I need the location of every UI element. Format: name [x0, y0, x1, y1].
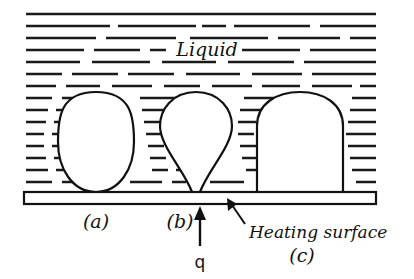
heating-surface-plate [24, 192, 376, 204]
heating-surface-label: Heating surface [248, 222, 387, 242]
case-label-b: (b) [167, 210, 194, 232]
case-label-a: (a) [83, 210, 109, 232]
liquid-label: Liquid [175, 38, 237, 60]
case-label-c: (c) [289, 244, 314, 266]
bubble-b-teardrop [160, 92, 232, 192]
heat-flux-arrow-icon [194, 206, 206, 246]
bubble-c-dome [257, 92, 343, 192]
bubble-a-ellipsoidal [58, 92, 134, 192]
diagram-canvas: Liquid q Heating surface (a) (b) (c) [0, 0, 414, 279]
heat-flux-label: q [195, 252, 206, 272]
boiling-bubble-diagram: Liquid q Heating surface (a) (b) (c) [0, 0, 414, 279]
